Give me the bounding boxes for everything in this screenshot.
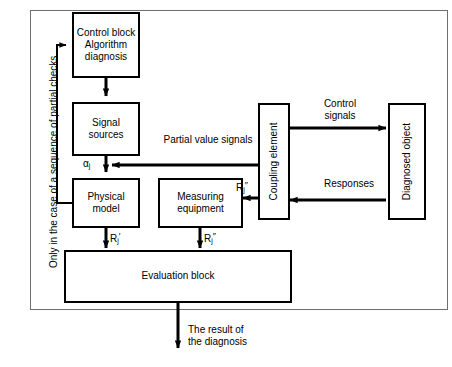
label-partial-value-signals: Partial value signals (155, 134, 261, 146)
symbol-rj-star-coupling: Rj″ (236, 180, 248, 193)
symbol-rj-prime-model-sup: ′ (119, 231, 121, 241)
box-control-block-label: Control block Algorithm diagnosis (77, 27, 135, 64)
box-physical-model[interactable]: Physical model (72, 178, 140, 228)
box-measuring-equipment-label: Measuring equipment (177, 191, 224, 215)
diagram-canvas: Only in the case of a sequence of partia… (0, 0, 452, 367)
label-responses: Responses (313, 178, 385, 190)
box-physical-model-label: Physical model (87, 191, 124, 215)
box-diagnosed-object[interactable]: Diagnosed object (388, 103, 426, 220)
box-signal-sources[interactable]: Signal sources (72, 102, 140, 156)
symbol-alpha-j-sub: j (89, 162, 91, 169)
side-note-partial-checks: Only in the case of a sequence of partia… (48, 56, 59, 268)
box-control-block[interactable]: Control block Algorithm diagnosis (72, 12, 140, 78)
arrow-feedback-loop (57, 45, 72, 203)
symbol-alpha-j: αj (83, 158, 90, 169)
box-evaluation-block-label: Evaluation block (142, 270, 215, 282)
box-diagnosed-object-label: Diagnosed object (402, 123, 413, 200)
label-control-signals: Control signals (312, 98, 368, 122)
box-coupling-element-label: Coupling element (269, 123, 280, 201)
box-signal-sources-label: Signal sources (88, 117, 123, 141)
symbol-rj-prime-model: Rj′ (110, 231, 120, 244)
symbol-rj-star-coupling-sup: ″ (245, 180, 248, 190)
box-measuring-equipment[interactable]: Measuring equipment (158, 178, 243, 228)
box-coupling-element[interactable]: Coupling element (258, 103, 290, 220)
box-evaluation-block[interactable]: Evaluation block (64, 250, 292, 303)
label-result-of-diagnosis: The result of the diagnosis (188, 324, 298, 348)
symbol-rj-star-measuring-out-sup: ″ (213, 231, 216, 241)
symbol-rj-star-measuring-out: Rj″ (204, 231, 216, 244)
